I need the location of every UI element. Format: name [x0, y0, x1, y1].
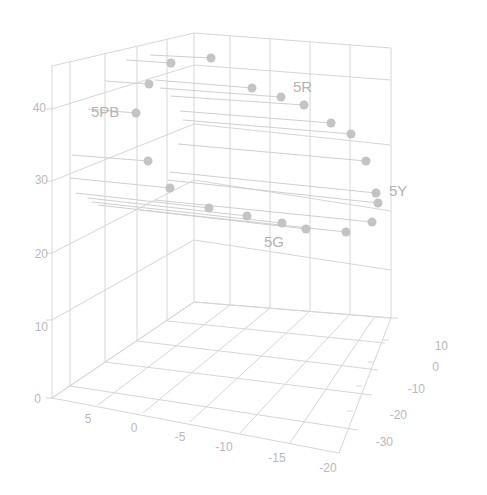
- x-tick-minus5: -5: [175, 430, 186, 444]
- data-point: [342, 228, 351, 237]
- back-wall-outline: [194, 33, 391, 318]
- scatter3d-chart: 0 10 20 30 40 5 0 -5 -10 -15 -20 10 0 -1…: [0, 0, 487, 495]
- data-point: [205, 204, 214, 213]
- data-point: [362, 157, 371, 166]
- data-point: [278, 219, 287, 228]
- projection-line: [168, 180, 378, 203]
- projection-line: [76, 193, 209, 208]
- projection-lines: [70, 55, 378, 232]
- x-tick-5: 5: [85, 412, 92, 426]
- z-tick-20: 20: [35, 247, 49, 261]
- y-tick-0: 0: [432, 360, 439, 374]
- hue-label-5y: 5Y: [389, 182, 407, 199]
- projection-line: [126, 60, 171, 63]
- data-point: [207, 54, 216, 63]
- z-tick-40: 40: [33, 101, 47, 115]
- data-point: [144, 157, 153, 166]
- data-point: [327, 119, 336, 128]
- x-tick-0: 0: [131, 421, 138, 435]
- hue-labels: 5PB 5R 5Y 5G: [91, 78, 407, 250]
- data-point: [248, 84, 257, 93]
- projection-line: [140, 210, 346, 232]
- data-point: [372, 189, 381, 198]
- y-tick-minus20: -20: [390, 408, 408, 422]
- z-tick-30: 30: [35, 173, 49, 187]
- y-axis-labels: 10 0 -10 -20 -30: [376, 339, 449, 449]
- data-point: [167, 59, 176, 68]
- data-point: [132, 109, 141, 118]
- y-tick-minus10: -10: [408, 382, 426, 396]
- y-axis-ticks: [347, 318, 398, 411]
- data-point: [243, 212, 252, 221]
- data-point: [347, 130, 356, 139]
- data-point: [145, 80, 154, 89]
- left-wall-outline: [52, 33, 194, 398]
- y-tick-minus30: -30: [376, 435, 394, 449]
- data-point: [277, 93, 286, 102]
- data-point: [374, 199, 383, 208]
- data-point: [302, 225, 311, 234]
- grid-walls: [52, 33, 391, 453]
- projection-line: [178, 144, 366, 161]
- projection-line: [155, 80, 252, 88]
- z-tick-10: 10: [35, 320, 49, 334]
- data-point: [166, 184, 175, 193]
- hue-label-5r: 5R: [293, 78, 312, 95]
- hue-label-5g: 5G: [264, 233, 284, 250]
- hue-label-5pb: 5PB: [91, 103, 119, 120]
- y-tick-10: 10: [435, 339, 449, 353]
- projection-line: [170, 172, 376, 193]
- data-point: [300, 101, 309, 110]
- projection-line: [150, 55, 211, 58]
- x-tick-minus20: -20: [319, 461, 337, 475]
- z-tick-0: 0: [34, 392, 41, 406]
- projection-line: [160, 88, 281, 97]
- x-tick-minus15: -15: [268, 451, 286, 465]
- projection-line: [70, 178, 170, 188]
- x-tick-minus10: -10: [215, 440, 233, 454]
- z-axis-labels: 0 10 20 30 40: [33, 101, 49, 406]
- data-point: [368, 218, 377, 227]
